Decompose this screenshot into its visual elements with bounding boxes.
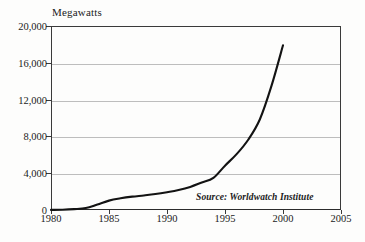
x-tick-label-1985: 1985: [99, 213, 120, 224]
x-tick-label-1990: 1990: [157, 213, 178, 224]
wind-capacity-chart: Megawatts 20,000 16,000 12,000 8,000 4,0…: [0, 0, 365, 242]
source-annotation: Source: Worldwatch Institute: [196, 192, 314, 202]
series-line-wind-capacity: [51, 45, 283, 210]
y-tick-label-12000: 12,000: [18, 94, 47, 105]
y-tick-label-4000: 4,000: [23, 168, 47, 179]
x-tick-label-1995: 1995: [215, 213, 236, 224]
y-tick-label-20000: 20,000: [18, 21, 47, 32]
y-axis-title: Megawatts: [52, 6, 102, 18]
x-tick-label-2005: 2005: [331, 213, 352, 224]
y-tick-label-8000: 8,000: [23, 131, 47, 142]
y-tick-label-16000: 16,000: [18, 57, 47, 68]
x-tick-label-2000: 2000: [273, 213, 294, 224]
x-tick-label-1980: 1980: [41, 213, 62, 224]
data-curve-layer: [51, 26, 341, 210]
